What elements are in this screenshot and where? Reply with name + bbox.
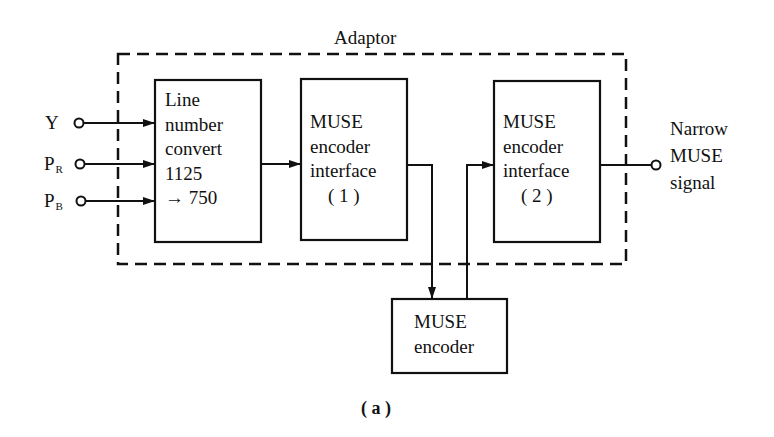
muse-encoder-text: MUSE encoder: [414, 310, 474, 359]
diagram-lines: [0, 0, 774, 437]
input-pr-label: PR: [44, 153, 63, 180]
adaptor-label: Adaptor: [334, 27, 396, 49]
muse-interface-2-text: MUSE encoder interface ( 2 ): [503, 110, 569, 208]
input-y-label: Y: [45, 112, 59, 134]
muse-interface-1-text: MUSE encoder interface ( 1 ): [310, 110, 376, 208]
figure-caption: ( a ): [361, 398, 391, 419]
line-number-convert-text: Line number convert 1125 → 750: [165, 88, 223, 211]
input-pb-label: PB: [44, 190, 63, 217]
output-label: Narrow MUSE signal: [670, 115, 728, 196]
